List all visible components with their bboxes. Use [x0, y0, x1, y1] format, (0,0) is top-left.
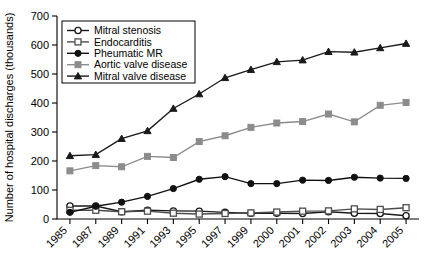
marker-filled-circle	[119, 199, 125, 205]
marker-open-square	[170, 210, 176, 216]
series-endocarditis	[67, 205, 409, 217]
x-tick-label-1999: 1999	[225, 224, 251, 250]
marker-filled-triangle	[196, 90, 203, 96]
marker-filled-circle	[75, 50, 81, 56]
marker-open-square	[326, 208, 332, 214]
x-tick-label-1989: 1989	[95, 224, 121, 250]
marker-filled-circle	[67, 209, 73, 215]
marker-open-square	[351, 206, 357, 212]
marker-filled-circle	[351, 174, 357, 180]
legend-label-4: Mitral valve disease	[94, 70, 186, 82]
y-tick-label-100: 100	[31, 184, 49, 196]
chart-figure: 0100200300400500600700Number of hospital…	[0, 0, 424, 255]
marker-filled-square	[248, 124, 254, 130]
marker-open-circle	[75, 27, 81, 33]
marker-filled-square	[75, 62, 81, 68]
y-tick-label-700: 700	[31, 10, 49, 22]
marker-filled-circle	[170, 185, 176, 191]
marker-open-square	[274, 209, 280, 215]
x-tick-label-2000: 2000	[250, 224, 276, 250]
x-tick-label-1997: 1997	[199, 224, 225, 250]
series-aortic-valve-disease	[67, 99, 409, 173]
marker-filled-circle	[325, 177, 331, 183]
marker-filled-circle	[274, 181, 280, 187]
x-tick-label-2004: 2004	[354, 224, 380, 250]
marker-filled-square	[222, 133, 228, 139]
x-tick-label-2002: 2002	[302, 224, 328, 250]
marker-open-square	[403, 205, 409, 211]
marker-filled-circle	[222, 174, 228, 180]
marker-open-square	[196, 211, 202, 217]
legend-label-3: Aortic valve disease	[94, 58, 188, 70]
y-tick-label-200: 200	[31, 155, 49, 167]
legend-label-2: Pheumatic MR	[94, 47, 163, 59]
y-axis-title: Number of hospital discharges (thousands…	[3, 13, 15, 223]
marker-filled-square	[377, 102, 383, 108]
marker-filled-square	[351, 119, 357, 125]
marker-filled-circle	[248, 181, 254, 187]
x-tick-label-2005: 2005	[380, 224, 406, 250]
marker-open-square	[300, 208, 306, 214]
marker-filled-square	[196, 139, 202, 145]
marker-filled-square	[119, 164, 125, 170]
y-tick-label-400: 400	[31, 97, 49, 109]
y-tick-label-500: 500	[31, 68, 49, 80]
marker-filled-square	[170, 155, 176, 161]
marker-open-square	[248, 210, 254, 216]
x-tick-label-1985: 1985	[44, 224, 70, 250]
x-tick-label-1995: 1995	[173, 224, 199, 250]
marker-open-square	[222, 210, 228, 216]
marker-filled-circle	[196, 176, 202, 182]
x-tick-label-1987: 1987	[69, 224, 95, 250]
marker-filled-square	[326, 111, 332, 117]
legend-label-0: Mitral stenosis	[94, 24, 161, 36]
marker-filled-circle	[377, 175, 383, 181]
marker-filled-square	[403, 99, 409, 105]
marker-open-square	[119, 209, 125, 215]
line-chart: 0100200300400500600700Number of hospital…	[0, 0, 424, 255]
marker-open-square	[377, 206, 383, 212]
marker-filled-circle	[93, 203, 99, 209]
marker-filled-triangle	[170, 105, 177, 111]
marker-filled-square	[145, 153, 151, 159]
legend-label-1: Endocarditis	[94, 36, 152, 48]
chart-legend: Mitral stenosisEndocarditisPheumatic MRA…	[62, 21, 195, 83]
x-tick-label-1993: 1993	[147, 224, 173, 250]
x-tick-label-1991: 1991	[121, 224, 147, 250]
marker-open-square	[145, 208, 151, 214]
x-tick-label-2003: 2003	[328, 224, 354, 250]
marker-filled-circle	[144, 193, 150, 199]
marker-filled-square	[274, 120, 280, 126]
marker-open-circle	[403, 213, 409, 219]
y-tick-label-300: 300	[31, 126, 49, 138]
marker-filled-triangle	[402, 40, 409, 46]
y-tick-label-0: 0	[43, 213, 49, 225]
marker-filled-square	[93, 163, 99, 169]
x-tick-label-2001: 2001	[276, 224, 302, 250]
marker-filled-circle	[300, 177, 306, 183]
marker-filled-square	[67, 168, 73, 174]
marker-open-square	[75, 39, 81, 45]
y-tick-label-600: 600	[31, 39, 49, 51]
marker-filled-circle	[403, 175, 409, 181]
marker-filled-square	[300, 119, 306, 125]
